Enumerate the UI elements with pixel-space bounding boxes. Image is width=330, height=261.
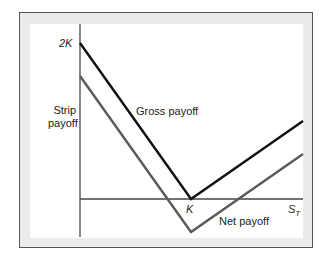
gross-payoff-label: Gross payoff	[136, 105, 198, 118]
x-tick-k: K	[186, 203, 193, 216]
y-axis-label-line1: Strip	[48, 104, 76, 117]
y-tick-2k: 2K	[59, 37, 72, 50]
payoff-chart	[0, 0, 330, 261]
y-axis-label-line2: payoff	[48, 117, 76, 130]
x-axis-label-sub: T	[295, 209, 300, 218]
y-axis-label: Strip payoff	[48, 104, 76, 130]
x-axis-label: ST	[288, 203, 300, 220]
net-payoff-label: Net payoff	[219, 215, 269, 228]
